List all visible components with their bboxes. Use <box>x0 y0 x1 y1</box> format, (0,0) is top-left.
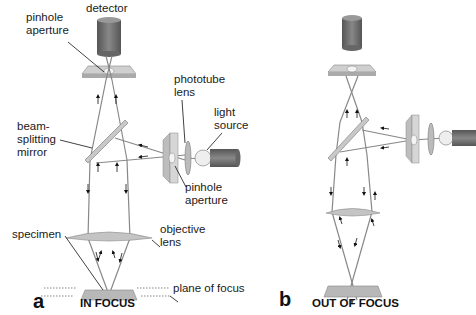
pinhole-aperture-top-icon <box>328 65 376 76</box>
beam-splitting-mirror-icon <box>85 120 128 163</box>
objective-lens-icon <box>66 232 152 241</box>
confocal-diagram <box>0 0 476 315</box>
label-phototube-lens: phototube lens <box>174 73 225 99</box>
panel-a-diagram <box>41 17 241 302</box>
label-beam-splitting-mirror: beam- splitting mirror <box>17 120 56 159</box>
light-source-icon <box>195 149 241 167</box>
detector-icon <box>342 15 362 51</box>
label-plane-of-focus: plane of focus <box>173 282 245 295</box>
panel-b-diagram <box>324 15 476 305</box>
panel-b-title: OUT OF FOCUS <box>312 297 399 309</box>
label-specimen: specimen <box>12 228 61 241</box>
label-pinhole-aperture-side: pinhole aperture <box>185 181 228 207</box>
ray-arrows <box>331 111 389 247</box>
phototube-lens-icon <box>428 123 434 155</box>
pinhole-aperture-side-icon <box>406 115 419 163</box>
label-detector: detector <box>86 2 128 15</box>
phototube-lens-icon <box>185 141 191 175</box>
panel-a-title: IN FOCUS <box>80 297 135 309</box>
pinhole-aperture-side-icon <box>163 133 178 183</box>
label-objective-lens: objective lens <box>160 223 205 249</box>
panel-b-letter: b <box>279 288 291 311</box>
detector-icon <box>97 17 121 57</box>
label-light-source: light source <box>214 106 249 132</box>
specimen-slide-icon <box>324 286 382 297</box>
label-pinhole-aperture-top: pinhole aperture <box>26 11 69 37</box>
beam-splitting-mirror-icon <box>328 117 369 161</box>
light-source-icon <box>439 130 476 146</box>
panel-a-letter: a <box>33 290 44 313</box>
light-rays <box>332 76 445 300</box>
